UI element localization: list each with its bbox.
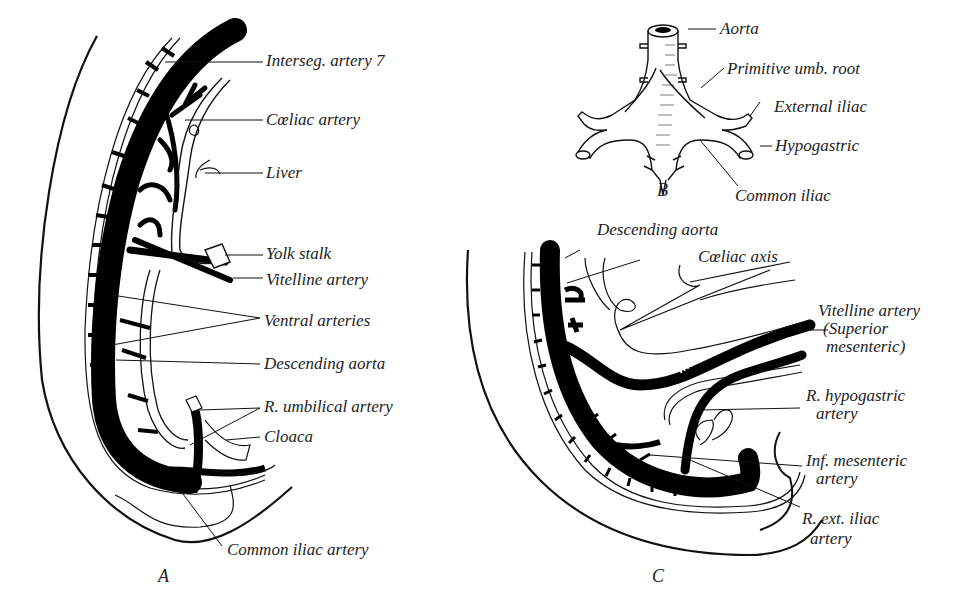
label-vitelline-artery: Vitelline artery xyxy=(266,271,368,289)
label-inf-mesenteric-artery: artery xyxy=(816,470,858,488)
label-coeliac-artery: Cœliac artery xyxy=(266,111,360,129)
label-aorta: Aorta xyxy=(720,20,759,38)
label-r-hypogastric-artery: artery xyxy=(816,405,858,423)
label-inf-mesenteric: Inf. mesenteric xyxy=(806,452,907,470)
label-r-umbilical-artery: R. umbilical artery xyxy=(264,398,393,416)
label-descending-aorta-a: Descending aorta xyxy=(264,355,385,373)
label-primitive-umb-root: Primitive umb. root xyxy=(727,60,860,78)
panel-label-a: A xyxy=(158,566,169,587)
label-superior: (Superior xyxy=(823,320,888,338)
panel-b-drawing xyxy=(576,25,772,195)
label-descending-aorta-c: Descending aorta xyxy=(597,221,718,239)
panel-c-drawing xyxy=(467,250,828,555)
panel-label-c: C xyxy=(652,566,664,587)
label-yolk-stalk: Yolk stalk xyxy=(266,245,331,263)
label-vitelline-artery-c: Vitelline artery xyxy=(818,302,920,320)
label-liver: Liver xyxy=(266,164,302,182)
label-cloaca: Cloaca xyxy=(264,428,313,446)
label-external-iliac: External iliac xyxy=(774,98,867,116)
label-common-iliac: Common iliac xyxy=(735,187,831,205)
label-r-hypogastric: R. hypogastric xyxy=(806,387,905,405)
label-mesenteric: mesenteric) xyxy=(826,338,905,356)
label-r-ext-iliac-artery: artery xyxy=(810,530,852,548)
panel-label-b: B xyxy=(657,180,668,201)
label-coeliac-axis: Cœliac axis xyxy=(698,248,778,266)
label-r-ext-iliac: R. ext. iliac xyxy=(802,510,879,528)
label-ventral-arteries: Ventral arteries xyxy=(264,312,370,330)
panel-a-drawing xyxy=(39,30,292,546)
label-common-iliac-artery: Common iliac artery xyxy=(227,541,369,559)
label-hypogastric: Hypogastric xyxy=(775,137,859,155)
label-interseg-artery: Interseg. artery 7 xyxy=(266,52,385,70)
